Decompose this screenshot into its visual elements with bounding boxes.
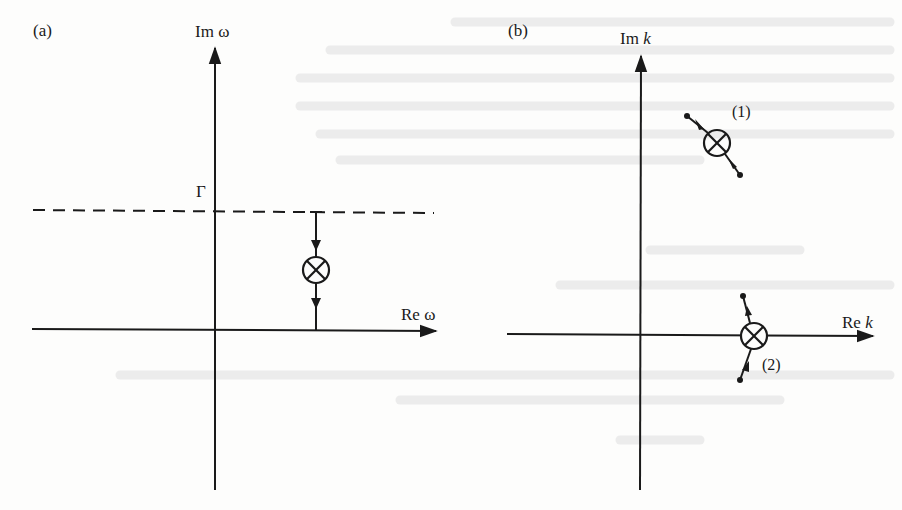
gamma-label: Γ — [196, 182, 206, 201]
im-k-axis-label: Im k — [620, 29, 651, 48]
arrow-down-right-icon — [728, 158, 737, 169]
re-k-axis-label: Re k — [842, 313, 873, 332]
pole-2-marker-icon — [741, 323, 767, 349]
gamma-contour-line — [33, 210, 434, 213]
pole-2-tag: (2) — [762, 356, 781, 374]
panel-a: (a) Im ω Re ω Γ — [32, 21, 436, 490]
figure-svg: (a) Im ω Re ω Γ — [0, 0, 902, 510]
pole-a-marker-icon — [303, 257, 329, 283]
re-omega-axis — [32, 329, 436, 331]
re-k-axis — [507, 334, 873, 336]
panel-b: (b) Im k Re k (1) — [507, 21, 873, 490]
panel-a-label: (a) — [33, 21, 52, 40]
bleed-through-text — [120, 22, 890, 440]
pole-1-tag: (1) — [732, 103, 751, 121]
im-omega-axis-label: Im ω — [195, 22, 229, 41]
figure-canvas: (a) Im ω Re ω Γ — [0, 0, 902, 510]
arrow-down-icon — [311, 240, 321, 251]
re-omega-axis-label: Re ω — [401, 305, 435, 324]
panel-b-label: (b) — [508, 21, 528, 40]
im-k-axis — [640, 56, 641, 490]
arrow-down-icon — [311, 298, 321, 309]
